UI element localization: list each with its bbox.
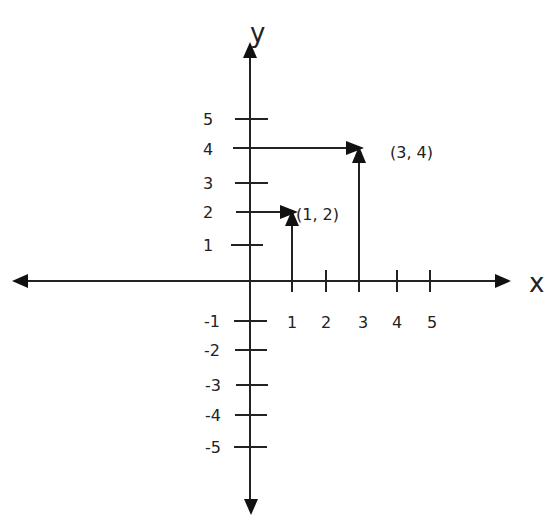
y-tick-label: 3 <box>203 174 213 193</box>
x-tick-label: 5 <box>427 313 437 332</box>
point-label: (1, 2) <box>296 205 339 224</box>
x-tick-label: 2 <box>321 313 331 332</box>
y-tick-label: -2 <box>204 341 220 360</box>
y-tick-label: -4 <box>205 406 221 425</box>
point-label: (3, 4) <box>390 143 433 162</box>
x-tick-label: 3 <box>358 313 368 332</box>
y-tick-label: 4 <box>203 140 213 159</box>
y-tick-label: 5 <box>203 110 213 129</box>
x-tick-label: 4 <box>392 313 402 332</box>
x-tick-label: 1 <box>287 313 297 332</box>
y-tick-label: -3 <box>205 376 221 395</box>
x-axis-label: x <box>529 268 544 298</box>
y-axis-label: y <box>250 18 265 48</box>
y-tick-label: 1 <box>203 236 213 255</box>
y-tick-label: -1 <box>204 312 220 331</box>
coordinate-plane: y x 1 2 3 4 5 5 4 3 2 1 -1 -2 -3 -4 -5 (… <box>0 0 556 523</box>
y-tick-label: -5 <box>205 438 221 457</box>
arrow-right-icon <box>495 274 511 288</box>
y-tick-label: 2 <box>203 203 213 222</box>
arrow-left-icon <box>12 274 28 288</box>
arrow-down-icon <box>244 499 258 515</box>
